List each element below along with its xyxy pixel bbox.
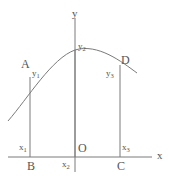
- origin-label: O: [78, 142, 87, 154]
- x-axis-label: x: [157, 150, 163, 161]
- ordinate-y3-base: y: [106, 68, 111, 78]
- ordinate-y2-label: y2: [78, 42, 86, 51]
- ordinate-y3-sub: 3: [111, 72, 114, 79]
- abscissa-x1-label: x1: [19, 143, 27, 152]
- point-d-label: D: [121, 54, 130, 66]
- point-a-label: A: [21, 58, 30, 70]
- abscissa-x2-sub: 2: [67, 163, 70, 170]
- ordinate-y1-base: y: [32, 68, 37, 78]
- abscissa-x3-sub: 3: [127, 146, 130, 153]
- abscissa-x1-sub: 1: [24, 146, 27, 153]
- ordinate-y2-base: y: [78, 41, 83, 51]
- abscissa-x1-base: x: [19, 142, 24, 152]
- point-c-label: C: [117, 160, 125, 172]
- ordinate-y3-label: y3: [106, 69, 114, 78]
- abscissa-x3-label: x3: [122, 143, 130, 152]
- ordinate-y1-label: y1: [32, 69, 40, 78]
- point-b-label: B: [27, 160, 35, 172]
- y-axis-label: y: [72, 8, 78, 19]
- abscissa-x3-base: x: [122, 142, 127, 152]
- ordinate-y1-sub: 1: [37, 72, 40, 79]
- ordinate-y2-sub: 2: [83, 45, 86, 52]
- geometry-figure: y x A D B C O y1 y2 y3 x1 x2 x3: [0, 0, 169, 181]
- abscissa-x2-base: x: [62, 159, 67, 169]
- abscissa-x2-label: x2: [62, 160, 70, 169]
